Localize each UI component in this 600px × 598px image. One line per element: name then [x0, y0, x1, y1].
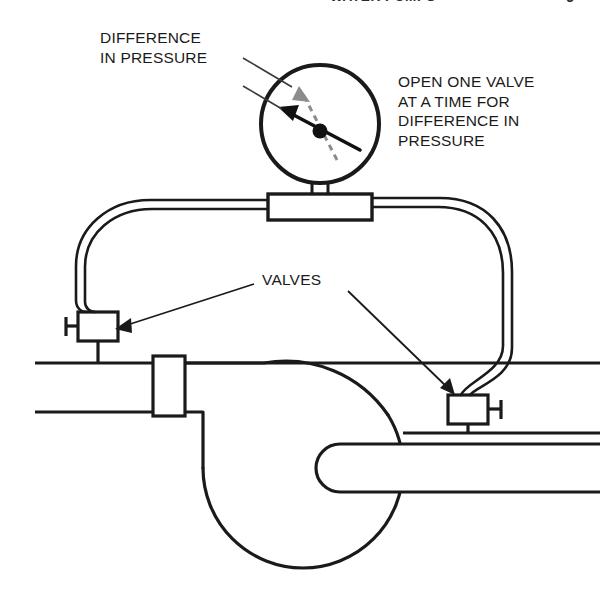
valves-leader-left — [124, 284, 254, 326]
right-valve-body — [448, 395, 488, 424]
right-hose-inner — [372, 207, 503, 395]
label-open-one-valve: OPEN ONE VALVE AT A TIME FOR DIFFERENCE … — [398, 72, 535, 150]
valves-leader-right-arrowhead — [440, 378, 455, 395]
valves-leader-right — [348, 291, 448, 388]
label-valves: VALVES — [262, 270, 321, 290]
left-hose-inner — [85, 209, 268, 312]
left-hose-outer — [76, 200, 268, 312]
volute-discharge-outer — [185, 361, 388, 415]
gauge-leader-upper — [243, 58, 292, 87]
label-difference-in-pressure: DIFFERENCE IN PRESSURE — [100, 28, 207, 67]
tee-block — [268, 194, 372, 220]
right-hose-outer — [372, 198, 512, 395]
pipe-flange-block — [153, 356, 185, 416]
suction-inlet-pipe — [316, 444, 600, 492]
volute-discharge-throat — [185, 412, 203, 468]
left-valve-body — [78, 312, 118, 341]
gauge-needle-hub — [313, 124, 328, 139]
